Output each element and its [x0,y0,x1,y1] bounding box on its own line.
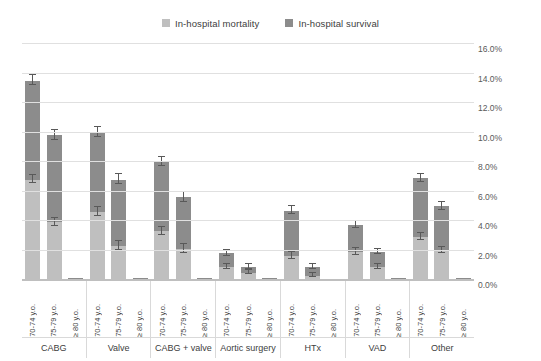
bar-segment-survival[interactable] [176,197,191,249]
bar-segment-mortality[interactable] [154,231,169,280]
bar-segment-mortality[interactable] [176,249,191,280]
bar-segment-mortality[interactable] [111,246,126,280]
stacked-bar[interactable] [413,178,428,280]
bar-group [345,44,410,280]
bar-segment-mortality[interactable] [348,252,363,280]
error-bar-mortality [352,247,359,255]
bar-slot[interactable] [111,44,126,280]
bar-group [151,44,216,280]
bar-slot[interactable] [154,44,169,280]
gridline-4 [22,220,474,221]
error-bar-total [180,191,187,202]
age-label-row: 70-74 y.o.75-79 y.o.≥ 80 y.o. [281,281,345,337]
x-tick-label-age: 70-74 y.o. [349,302,364,337]
x-tick-label-age: 75-79 y.o. [46,302,61,337]
x-axis-group: 70-74 y.o.75-79 y.o.≥ 80 y.o.VAD [346,281,411,358]
bar-segment-mortality[interactable] [284,256,299,280]
bar-group [280,44,345,280]
error-bar-mortality [309,272,316,277]
bar-slot[interactable] [219,44,234,280]
bar-slot[interactable] [305,44,320,280]
bar-segment-survival[interactable] [90,133,105,213]
legend-item-survival: In-hospital survival [285,18,379,29]
x-tick-label-age: 70-74 y.o. [90,302,105,337]
legend-label-survival: In-hospital survival [298,18,379,29]
bar-slot[interactable] [348,44,363,280]
x-axis-group: 70-74 y.o.75-79 y.o.≥ 80 y.o.CABG [22,281,87,358]
bar-slot[interactable] [47,44,62,280]
bar-segment-survival[interactable] [47,135,62,222]
x-axis: 70-74 y.o.75-79 y.o.≥ 80 y.o.CABG70-74 y… [22,280,474,358]
x-tick-label-age: ≥ 80 y.o. [197,307,212,337]
x-axis-group: 70-74 y.o.75-79 y.o.≥ 80 y.o.Other [410,281,474,358]
y-axis: 0.0%2.0%4.0%6.0%8.0%10.0%12.0%14.0%16.0% [478,44,538,280]
bar-slot[interactable] [391,44,406,280]
bar-segment-mortality[interactable] [47,222,62,280]
x-tick-label-age: 75-79 y.o. [241,302,256,337]
stacked-bar[interactable] [154,162,169,280]
gridline-6 [22,191,474,192]
stacked-bar[interactable] [284,211,299,280]
bar-segment-survival[interactable] [434,206,449,250]
bar-slot[interactable] [90,44,105,280]
x-tick-label-age: ≥ 80 y.o. [326,307,341,337]
bar-slot[interactable] [176,44,191,280]
error-bar-mortality [288,251,295,259]
error-bar-mortality [115,240,122,249]
bar-group [216,44,281,280]
stacked-bar[interactable] [434,206,449,280]
bar-segment-mortality[interactable] [434,251,449,281]
x-tick-label-age: 75-79 y.o. [435,302,450,337]
x-axis-group-label: VAD [346,337,410,358]
x-axis-group: 70-74 y.o.75-79 y.o.≥ 80 y.o.HTx [281,281,346,358]
error-bar-total [29,74,36,85]
bar-slot[interactable] [456,44,471,280]
bar-slot[interactable] [327,44,342,280]
bar-slot[interactable] [68,44,83,280]
bar-segment-mortality[interactable] [25,180,40,280]
bar-slot[interactable] [434,44,449,280]
bar-group [22,44,87,280]
error-bar-mortality [158,226,165,235]
age-label-row: 70-74 y.o.75-79 y.o.≥ 80 y.o. [410,281,474,337]
bar-segment-mortality[interactable] [90,212,105,280]
x-tick-label-age: 70-74 y.o. [25,302,40,337]
x-tick-label-age: 75-79 y.o. [305,302,320,337]
x-tick-label-age: ≥ 80 y.o. [456,307,471,337]
bar-slot[interactable] [133,44,148,280]
bar-slot[interactable] [25,44,40,280]
x-axis-group-label: CABG + valve [151,337,215,358]
stacked-bar[interactable] [47,135,62,280]
x-tick-label-age: 75-79 y.o. [111,302,126,337]
x-tick-label-age: ≥ 80 y.o. [262,307,277,337]
error-bar-total [438,201,445,210]
bar-segment-mortality[interactable] [413,237,428,280]
stacked-bar[interactable] [176,197,191,280]
stacked-bar[interactable] [111,180,126,280]
x-tick-label-age: ≥ 80 y.o. [391,307,406,337]
x-tick-label-age: 70-74 y.o. [284,302,299,337]
bar-chart: In-hospital mortality In-hospital surviv… [0,0,541,361]
bar-segment-survival[interactable] [25,81,40,180]
gridline-16 [22,43,474,44]
bar-slot[interactable] [370,44,385,280]
plot-area [22,44,474,280]
error-bar-mortality [245,269,252,275]
error-bar-total [245,263,252,269]
gridline-10 [22,132,474,133]
error-bar-mortality [223,263,230,269]
error-bar-mortality [417,232,424,240]
bar-slot[interactable] [284,44,299,280]
bar-slot[interactable] [241,44,256,280]
error-bar-total [417,173,424,182]
error-bar-mortality [180,243,187,252]
bar-slot[interactable] [413,44,428,280]
bar-slot[interactable] [262,44,277,280]
x-axis-group-label: HTx [281,337,345,358]
bar-segment-survival[interactable] [413,178,428,237]
bar-slot[interactable] [197,44,212,280]
bar-group [87,44,152,280]
gridline-12 [22,102,474,103]
legend-item-mortality: In-hospital mortality [162,18,259,29]
x-tick-label-age: 70-74 y.o. [219,302,234,337]
